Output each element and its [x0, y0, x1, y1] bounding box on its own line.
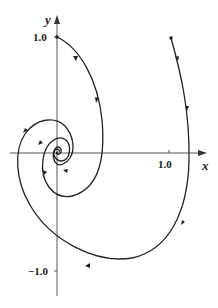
y-tick-label-1: 1.0	[33, 31, 47, 43]
equilibrium-point	[56, 152, 58, 154]
y-axis-label: y	[43, 12, 51, 27]
direction-arrow-icon	[181, 220, 185, 225]
y-axis-arrow-icon	[54, 15, 60, 24]
direction-arrow-icon	[73, 56, 78, 61]
start-point	[169, 36, 173, 40]
direction-arrow-icon	[85, 263, 90, 268]
direction-arrow-icon	[38, 140, 43, 145]
direction-arrow-icon	[63, 169, 68, 173]
trajectory-from-0-1	[43, 35, 103, 196]
x-tick-label-1: 1.0	[158, 158, 172, 170]
trajectory-from-1-1	[18, 36, 189, 268]
y-tick-label-neg1: −1.0	[28, 265, 49, 277]
start-point	[55, 35, 59, 39]
x-axis-arrow-icon	[198, 150, 207, 156]
x-axis-label: x	[201, 158, 209, 173]
phase-portrait: y x 1.0 −1.0 1.0	[0, 0, 218, 308]
